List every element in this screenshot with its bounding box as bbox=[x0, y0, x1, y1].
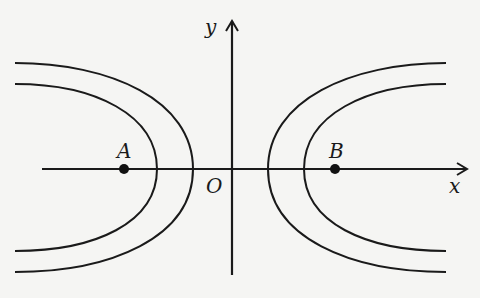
point-b bbox=[330, 164, 340, 174]
x-axis-label: x bbox=[449, 176, 460, 196]
origin-label: O bbox=[206, 176, 222, 196]
point-a-label: A bbox=[117, 141, 131, 161]
point-b-label: B bbox=[329, 141, 344, 161]
right-inner-curve bbox=[304, 84, 446, 251]
right-outer-curve bbox=[268, 63, 446, 272]
left-inner-curve bbox=[15, 84, 157, 251]
y-axis-label: y bbox=[205, 17, 216, 37]
point-a bbox=[119, 164, 129, 174]
diagram-svg bbox=[0, 0, 480, 298]
diagram-canvas: y x O A B bbox=[0, 0, 480, 298]
left-outer-curve bbox=[15, 63, 193, 272]
